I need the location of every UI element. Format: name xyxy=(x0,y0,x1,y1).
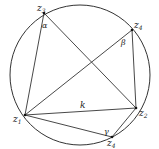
vertex-z4-top xyxy=(131,29,134,32)
circumcircle xyxy=(10,5,150,145)
segment-z1-zbottom xyxy=(25,115,112,137)
angle-gamma: γ xyxy=(104,127,109,136)
label-z4-bottom: z4 xyxy=(106,138,116,149)
label-z2: z2 xyxy=(138,108,148,119)
angle-beta: β xyxy=(120,38,126,47)
circle-diagram: z1 z2 z3 z4 z4 α β γ k xyxy=(0,0,159,149)
segment-z1-z4 xyxy=(25,30,132,115)
chord-label-k: k xyxy=(80,100,85,110)
segment-zbottom-z2 xyxy=(112,108,136,137)
label-z4-top: z4 xyxy=(133,20,143,31)
vertex-z2 xyxy=(135,107,138,110)
vertex-z1 xyxy=(24,114,27,117)
segments xyxy=(25,13,136,137)
segment-z4-z2 xyxy=(132,30,136,108)
segment-z3-z2 xyxy=(44,13,136,108)
angle-alpha: α xyxy=(42,21,48,30)
label-z3: z3 xyxy=(36,3,46,14)
label-z1: z1 xyxy=(12,114,22,125)
